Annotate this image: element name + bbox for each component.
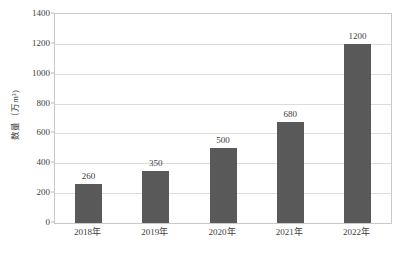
bar[interactable]	[210, 148, 237, 223]
bar-group: 350	[142, 14, 169, 223]
x-axis-tick-label: 2021年	[276, 228, 303, 237]
bar-value-label: 260	[57, 172, 120, 181]
y-axis-tick-label: 1000	[32, 68, 50, 77]
bar[interactable]	[277, 122, 304, 224]
x-axis-tick-label: 2018年	[74, 228, 101, 237]
y-axis-tick-label: 1200	[32, 38, 50, 47]
y-axis-tick-label: 400	[37, 158, 51, 167]
y-axis-tick-labels: 0200400600800100012001400	[18, 8, 54, 224]
y-axis-tick-label: 200	[37, 188, 51, 197]
bar-group: 500	[210, 14, 237, 223]
bar-value-label: 500	[192, 136, 255, 145]
y-axis-tick-label: 600	[37, 128, 51, 137]
bar-value-label: 680	[259, 110, 322, 119]
bar-group: 1200	[344, 14, 371, 223]
bars-layer: 2603505006801200	[55, 14, 391, 223]
bar-group: 260	[75, 14, 102, 223]
bar-chart: 数量（万m³) 0200400600800100012001400 260350…	[0, 0, 396, 257]
y-axis-tick-label: 800	[37, 98, 51, 107]
y-axis-tick-label: 1400	[32, 9, 50, 18]
bar-group: 680	[277, 14, 304, 223]
x-axis-tick-label: 2022年	[343, 228, 370, 237]
bar[interactable]	[75, 184, 102, 223]
bar[interactable]	[142, 171, 169, 223]
bar[interactable]	[344, 44, 371, 223]
x-axis-tick-label: 2019年	[141, 228, 168, 237]
plot-area: 2603505006801200	[54, 13, 392, 224]
bar-value-label: 350	[124, 159, 187, 168]
x-axis-tick-labels: 2018年2019年2020年2021年2022年	[54, 228, 392, 248]
bar-value-label: 1200	[326, 32, 389, 41]
y-axis-tick-label: 0	[46, 218, 51, 227]
x-axis-tick-label: 2020年	[209, 228, 236, 237]
